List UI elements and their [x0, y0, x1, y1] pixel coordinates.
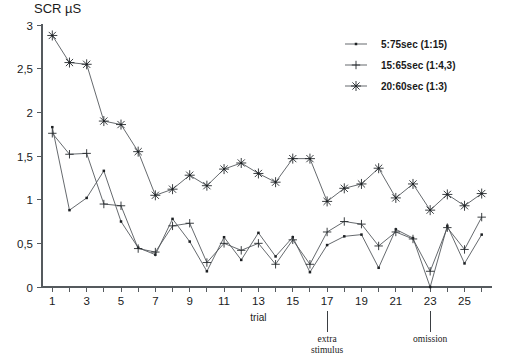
marker-square-1: [309, 271, 312, 274]
legend-label: 15:65sec (1:4,3): [381, 60, 456, 71]
series-3: [47, 30, 486, 215]
chart-title: SCR µS: [34, 1, 82, 16]
marker-asterisk-core: [120, 124, 122, 126]
marker-square-1: [377, 267, 380, 270]
marker-asterisk-core: [429, 209, 431, 211]
marker-square-1: [429, 286, 432, 289]
marker-square-1: [257, 232, 260, 235]
y-tick-label: 0: [27, 282, 33, 294]
marker-asterisk-core: [258, 173, 260, 175]
marker-square-1: [223, 236, 226, 239]
marker-square-1: [343, 235, 346, 238]
legend-label: 20:60sec (1:3): [381, 81, 447, 92]
y-tick-label: 1,5: [17, 151, 33, 163]
series-1: [51, 126, 483, 288]
marker-asterisk-core: [103, 120, 105, 122]
series-2: [48, 129, 486, 275]
marker-asterisk-core: [309, 158, 311, 160]
legend-item: 5:75sec (1:15): [345, 39, 447, 50]
marker-asterisk-core: [395, 197, 397, 199]
y-tick-label: 0,5: [17, 238, 33, 250]
legend-item: 20:60sec (1:3): [345, 81, 447, 92]
marker-square-1: [326, 244, 329, 247]
marker-asterisk-core: [155, 195, 157, 197]
marker-square-1: [103, 170, 106, 173]
marker-square-1: [51, 126, 54, 128]
marker-asterisk-core: [412, 183, 414, 185]
x-tick-label: 13: [252, 295, 265, 307]
legend-item: 15:65sec (1:4,3): [345, 60, 456, 71]
x-tick-label: 3: [83, 295, 89, 307]
y-tick-label: 2,5: [17, 63, 33, 75]
y-tick-label: 2: [27, 107, 33, 119]
marker-square-legend: [355, 43, 358, 46]
marker-asterisk-core: [172, 188, 174, 190]
annotation-label: extra: [318, 334, 338, 344]
marker-asterisk-core: [189, 174, 191, 176]
annotation-label: omission: [413, 334, 448, 344]
marker-square-1: [360, 233, 363, 236]
marker-asterisk-core: [86, 64, 88, 66]
marker-square-1: [206, 270, 209, 273]
marker-square-1: [85, 197, 88, 200]
marker-asterisk-core: [69, 62, 71, 64]
x-axis-title: trial: [250, 312, 266, 323]
marker-square-1: [68, 209, 71, 212]
legend: 5:75sec (1:15)15:65sec (1:4,3)20:60sec (…: [345, 39, 456, 92]
marker-asterisk-core: [355, 85, 357, 87]
marker-square-1: [274, 255, 277, 258]
x-tick-label: 17: [321, 295, 334, 307]
marker-asterisk-core: [275, 181, 277, 183]
marker-square-1: [171, 218, 174, 221]
x-axis-ticks: 135791113151719212325: [49, 287, 482, 307]
marker-asterisk-core: [343, 188, 345, 190]
marker-asterisk-core: [52, 35, 54, 37]
marker-asterisk-core: [464, 205, 466, 207]
x-tick-label: 11: [218, 295, 230, 307]
marker-asterisk-core: [206, 185, 208, 187]
marker-asterisk-core: [481, 193, 483, 195]
x-tick-label: 25: [458, 295, 471, 307]
annotations-group: extrastimulusomission: [311, 311, 448, 355]
marker-square-1: [240, 259, 243, 262]
x-tick-label: 19: [355, 295, 368, 307]
x-tick-label: 23: [424, 295, 437, 307]
marker-asterisk-core: [240, 162, 242, 164]
x-tick-label: 21: [389, 295, 402, 307]
marker-asterisk-core: [292, 158, 294, 160]
marker-asterisk-core: [326, 201, 328, 203]
marker-asterisk-core: [223, 168, 225, 170]
marker-square-1: [120, 220, 123, 223]
x-tick-label: 7: [152, 295, 158, 307]
y-tick-label: 3: [27, 20, 33, 32]
y-tick-label: 1: [27, 194, 33, 206]
chart-container: SCR µS00,511,522,53135791113151719212325…: [0, 0, 506, 363]
annotation-label: stimulus: [311, 345, 344, 355]
marker-square-1: [463, 262, 466, 265]
marker-square-1: [188, 240, 191, 243]
marker-asterisk-core: [378, 167, 380, 169]
marker-asterisk-core: [137, 151, 139, 153]
scr-line-chart: SCR µS00,511,522,53135791113151719212325…: [0, 0, 506, 363]
y-axis-ticks: 00,511,522,53: [17, 20, 42, 294]
x-tick-label: 9: [187, 295, 193, 307]
marker-asterisk-core: [361, 183, 363, 185]
legend-label: 5:75sec (1:15): [381, 39, 447, 50]
marker-square-1: [480, 233, 483, 236]
x-tick-label: 5: [118, 295, 124, 307]
x-tick-label: 15: [286, 295, 299, 307]
x-tick-label: 1: [49, 295, 55, 307]
marker-asterisk-core: [447, 194, 449, 196]
series-line-1: [52, 127, 481, 287]
